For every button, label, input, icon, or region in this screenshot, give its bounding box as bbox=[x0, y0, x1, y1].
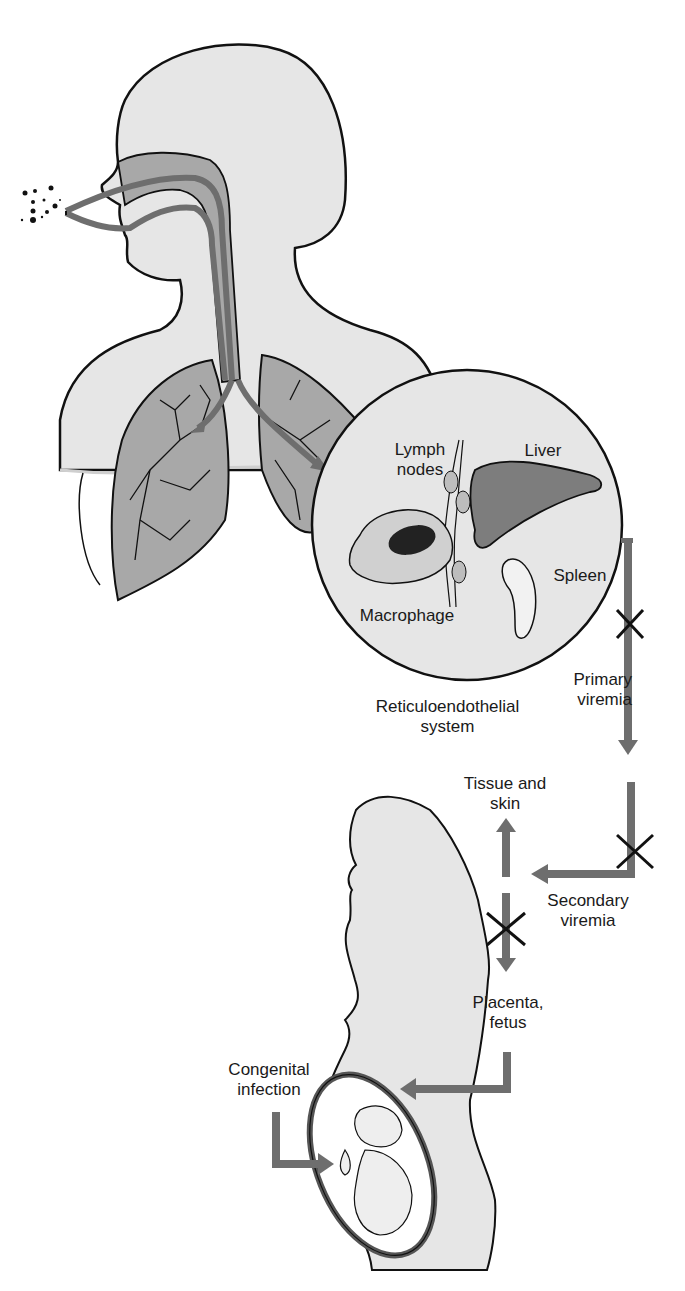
label-spleen: Spleen bbox=[540, 566, 620, 586]
label-primary-viremia: Primary viremia bbox=[552, 670, 632, 710]
label-macrophage: Macrophage bbox=[342, 606, 472, 626]
placenta-arrow bbox=[487, 893, 525, 972]
primary-viremia-arrow bbox=[617, 538, 643, 755]
reticuloendothelial-inset bbox=[312, 370, 622, 680]
label-placenta-fetus: Placenta, fetus bbox=[458, 993, 558, 1033]
airborne-particles bbox=[21, 186, 61, 224]
pregnant-woman-figure bbox=[285, 797, 495, 1274]
label-reticuloendothelial-system: Reticuloendothelial system bbox=[355, 697, 540, 737]
label-secondary-viremia: Secondary viremia bbox=[533, 891, 643, 931]
label-tissue-and-skin: Tissue and skin bbox=[450, 774, 560, 814]
label-lymph-nodes: Lymph nodes bbox=[375, 440, 465, 480]
label-congenital-infection: Congenital infection bbox=[214, 1060, 324, 1100]
label-liver: Liver bbox=[508, 441, 578, 461]
infection-pathway-diagram bbox=[0, 0, 685, 1291]
tissue-skin-arrow bbox=[496, 818, 516, 877]
